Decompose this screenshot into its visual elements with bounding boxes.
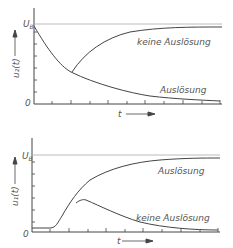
y-axis-arrow-icon — [13, 157, 17, 184]
y-axis-label: u₂(t) — [11, 58, 21, 78]
x-axis-label: t — [117, 236, 121, 246]
curve-label-auslosung: Auslösung — [159, 85, 207, 95]
x-axis-label: t — [118, 109, 122, 119]
x-axis-arrow-icon — [122, 239, 153, 243]
y-axis-label: u₁(t) — [10, 186, 20, 206]
curve-keine-auslosung — [72, 27, 222, 72]
ub-label: UB — [22, 151, 33, 162]
zero-label: 0 — [25, 98, 31, 108]
y-axis-arrow-icon — [13, 30, 17, 56]
ub-label: UB — [23, 19, 34, 30]
curve-label-keine-auslosung: keine Auslösung — [137, 37, 211, 47]
curve-label-keine-auslosung: keine Auslösung — [136, 213, 210, 223]
bottom-chart: UB 0 u₁(t) t Auslösung keine Auslösung — [0, 124, 233, 248]
top-chart: UB 0 u₂(t) t keine Auslösung Auslösung — [0, 0, 233, 124]
x-axis-arrow-icon — [126, 112, 155, 116]
curve-label-auslosung: Auslösung — [157, 166, 205, 176]
zero-label: 0 — [23, 229, 29, 239]
